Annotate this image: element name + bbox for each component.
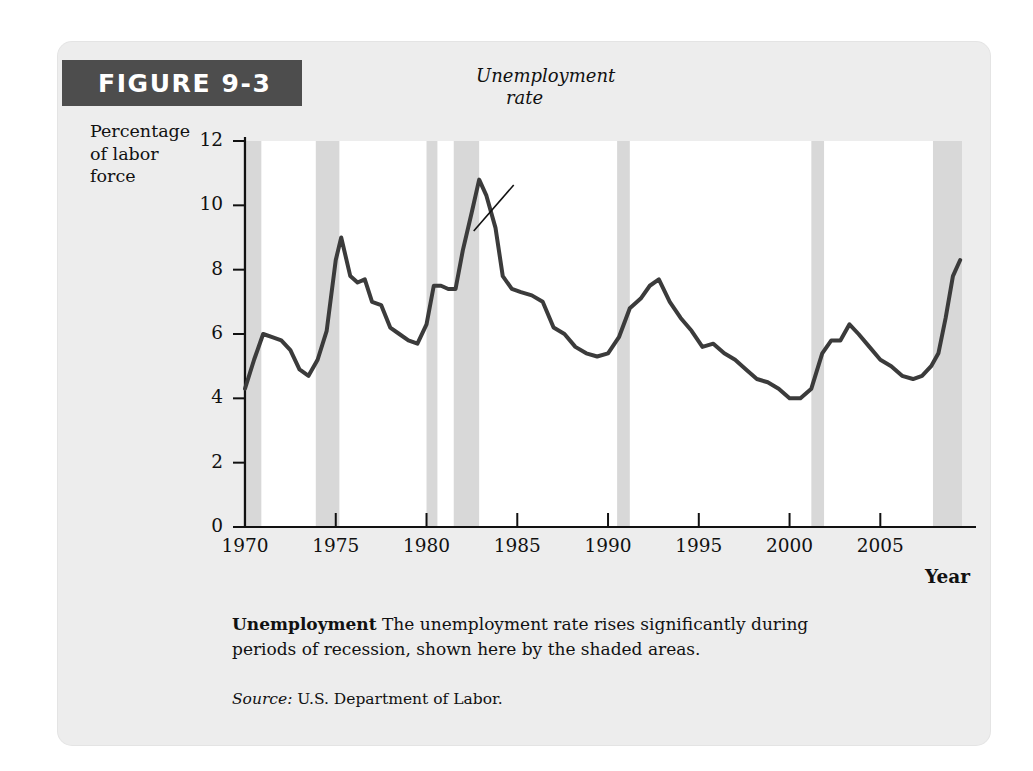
source-text: U.S. Department of Labor. <box>292 690 502 708</box>
x-axis-title: Year <box>925 566 970 587</box>
figure-caption: Unemployment The unemployment rate rises… <box>232 612 842 662</box>
source-label: Source: <box>232 690 292 708</box>
recession-band <box>427 141 438 527</box>
y-tick-label: 12 <box>183 129 223 150</box>
y-tick-label: 8 <box>183 258 223 279</box>
plot-background <box>245 141 962 527</box>
y-tick-label: 6 <box>183 322 223 343</box>
x-tick-label: 1970 <box>210 535 280 556</box>
recession-band <box>811 141 824 527</box>
x-tick-label: 1990 <box>573 535 643 556</box>
source-line: Source: U.S. Department of Labor. <box>232 690 503 708</box>
y-tick-label: 2 <box>183 451 223 472</box>
series-annotation: Unemployment rate <box>476 65 615 109</box>
y-tick-label: 10 <box>183 193 223 214</box>
y-tick-label: 0 <box>183 515 223 536</box>
x-tick-label: 2005 <box>845 535 915 556</box>
y-tick-label: 4 <box>183 386 223 407</box>
series-annotation-line-1: Unemployment <box>476 65 615 86</box>
figure-card: FIGURE 9-3 Percentage of labor force 024… <box>58 42 990 745</box>
x-tick-label: 1985 <box>482 535 552 556</box>
x-tick-label: 2000 <box>755 535 825 556</box>
x-tick-label: 1995 <box>664 535 734 556</box>
recession-band <box>933 141 962 527</box>
caption-title: Unemployment <box>232 614 377 634</box>
x-tick-label: 1975 <box>301 535 371 556</box>
series-annotation-line-2: rate <box>476 87 615 109</box>
x-tick-label: 1980 <box>392 535 462 556</box>
